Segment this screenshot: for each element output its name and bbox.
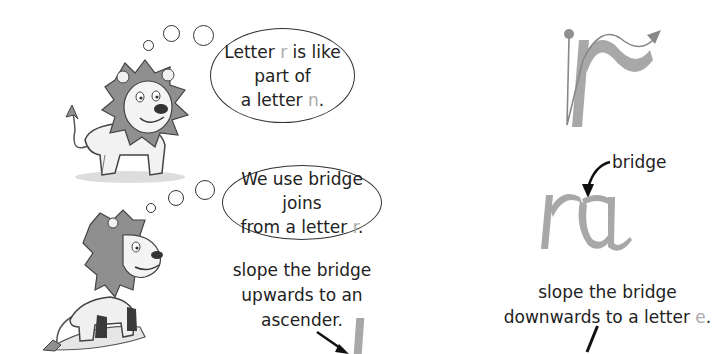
thought-bubble-letter-r: Letter r is like part of a letter n. [210,28,355,123]
thought-dot-medium [168,190,184,206]
downward-slope-caption: slope the bridge downwards to a letter e… [495,280,720,330]
lion-smiling-illustration [30,55,200,185]
arrow-head-icon [647,30,661,44]
thought-dot-small [146,203,156,213]
thought-dot-small [143,40,154,51]
bubble-line-2: a letter n. [241,88,324,112]
bubble-line-2: from a letter r. [241,215,364,239]
grey-letter-n: n [308,90,319,110]
bubble-line-1: Letter r is like part of [211,40,354,88]
arrow-to-ascender-icon [315,330,355,354]
upward-slope-caption: slope the bridge upwards to an ascender. [232,258,372,333]
thought-dot-medium [163,25,180,42]
bubble-line-1: We use bridge joins [223,167,381,215]
letter-r-formation-diagram [555,20,675,140]
thought-dot-large [195,180,215,200]
ra-bridge-join-diagram [540,187,660,257]
ascender-stroke [354,318,365,354]
lion-on-rock-illustration [35,205,185,354]
thought-bubble-bridge-joins: We use bridge joins from a letter r. [222,165,382,240]
grey-letter-e: e [695,307,705,327]
